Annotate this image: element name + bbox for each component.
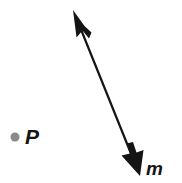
line-m-label: m xyxy=(146,159,163,178)
arrowhead-down-icon xyxy=(122,142,144,176)
geometry-canvas xyxy=(0,0,182,183)
geometry-figure: P m xyxy=(0,0,182,183)
point-p-dot xyxy=(11,133,20,142)
line-m-group xyxy=(73,10,144,176)
line-m-shaft xyxy=(80,27,134,161)
point-p-label: P xyxy=(25,126,39,147)
